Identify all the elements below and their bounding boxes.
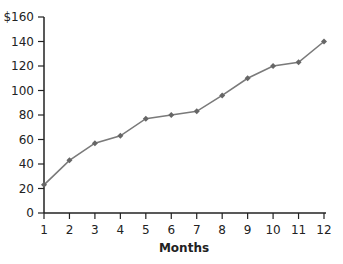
data-point-marker xyxy=(270,63,276,69)
y-tick-label: 0 xyxy=(26,206,34,220)
x-tick-label: 1 xyxy=(40,223,48,237)
x-tick-label: 3 xyxy=(91,223,99,237)
x-tick-label: 9 xyxy=(244,223,252,237)
y-tick-label: 100 xyxy=(11,84,34,98)
data-point-marker xyxy=(168,112,174,118)
x-tick-label: 4 xyxy=(117,223,125,237)
x-tick-label: 11 xyxy=(291,223,306,237)
y-tick-label: 140 xyxy=(11,35,34,49)
y-tick-label: 40 xyxy=(19,157,34,171)
x-tick-label: 6 xyxy=(167,223,175,237)
y-tick-label: 120 xyxy=(11,59,34,73)
x-axis-title: Months xyxy=(159,241,209,255)
y-tick-label: 80 xyxy=(19,108,34,122)
y-tick-label: 60 xyxy=(19,133,34,147)
x-tick-label: 12 xyxy=(316,223,331,237)
x-axis: 123456789101112 xyxy=(40,213,331,237)
y-tick-label: 20 xyxy=(19,182,34,196)
x-tick-label: 8 xyxy=(218,223,226,237)
y-axis: 020406080100120140$160 xyxy=(3,10,44,220)
x-tick-label: 5 xyxy=(142,223,150,237)
line-chart: 020406080100120140$160 123456789101112 M… xyxy=(0,0,343,264)
x-tick-label: 10 xyxy=(265,223,280,237)
series-line xyxy=(44,42,324,185)
data-series xyxy=(41,39,327,188)
x-tick-label: 7 xyxy=(193,223,201,237)
y-tick-label: $160 xyxy=(3,10,34,24)
x-tick-label: 2 xyxy=(66,223,74,237)
